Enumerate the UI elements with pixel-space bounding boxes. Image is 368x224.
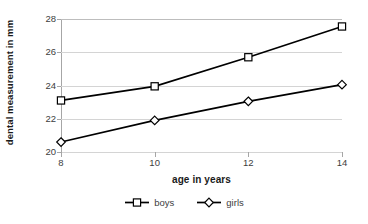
legend-item-girls[interactable]: girls (196, 197, 243, 208)
x-axis-tickmark (61, 152, 62, 157)
series-girls (57, 80, 347, 146)
legend-label: girls (226, 198, 243, 208)
x-axis-tick-label: 10 (149, 158, 160, 168)
diamond-marker-icon (150, 116, 159, 125)
diamond-marker-icon (196, 197, 222, 208)
y-axis-tick-label: 28 (30, 14, 56, 24)
gridline (61, 152, 342, 153)
square-marker-icon (151, 83, 158, 90)
series-line (61, 26, 342, 100)
square-marker-icon (245, 54, 252, 61)
x-axis-tickmark (248, 152, 249, 157)
x-axis-tickmark (342, 152, 343, 157)
diamond-marker-icon (338, 80, 347, 89)
chart-legend: boysgirls (0, 197, 368, 208)
line-chart: dental measurement in mm 2022242628 age … (0, 0, 368, 224)
y-axis-tick-labels: 2022242628 (26, 0, 56, 224)
y-axis-tick-label: 26 (30, 48, 56, 58)
x-axis-title: age in years (61, 174, 342, 185)
x-axis-tick-label: 12 (243, 158, 254, 168)
series-layer (61, 19, 342, 152)
y-axis-tickmark (57, 19, 61, 20)
legend-item-boys[interactable]: boys (124, 197, 174, 208)
y-axis-tickmark (57, 52, 61, 53)
diamond-marker-icon (244, 97, 253, 106)
plot-area (61, 19, 342, 152)
diamond-marker-icon (57, 138, 66, 147)
square-marker-icon (57, 97, 64, 104)
y-axis-title-label: dental measurement in mm (5, 20, 16, 145)
y-axis-tick-label: 22 (30, 114, 56, 124)
y-axis-tickmark (57, 119, 61, 120)
x-axis-tick-label: 8 (58, 158, 63, 168)
y-axis-tick-label: 20 (30, 147, 56, 157)
x-axis-tickmark (155, 152, 156, 157)
square-marker-icon (124, 197, 150, 208)
square-marker-icon (338, 23, 345, 30)
y-axis-tickmark (57, 86, 61, 87)
y-axis-tick-label: 24 (30, 81, 56, 91)
x-axis-tick-label: 14 (337, 158, 348, 168)
y-axis-title: dental measurement in mm (0, 0, 20, 165)
legend-label: boys (154, 198, 174, 208)
